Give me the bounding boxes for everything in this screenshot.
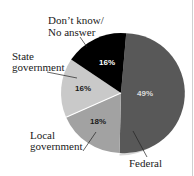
pct-federal: 49% — [137, 89, 153, 98]
pct-dont-know: 16% — [99, 58, 115, 67]
pct-state: 16% — [75, 84, 91, 93]
label-dont-know-line1: Don’t know/ — [48, 15, 104, 26]
pct-local: 18% — [90, 117, 106, 126]
label-state-line2: government — [12, 62, 65, 73]
leader-line-dont-know — [80, 37, 87, 47]
frame-edge — [192, 0, 193, 176]
pie-chart: Don’t know/ No answer State government L… — [0, 0, 194, 176]
label-local-line2: government — [30, 141, 83, 152]
label-dont-know-line2: No answer — [48, 27, 95, 38]
label-federal: Federal — [129, 158, 162, 169]
